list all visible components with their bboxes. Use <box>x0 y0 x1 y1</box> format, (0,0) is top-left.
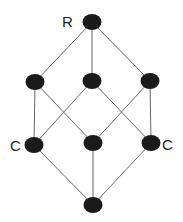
node-m3 <box>141 73 160 89</box>
node-top <box>83 14 102 30</box>
diagram-canvas: R C C <box>0 0 183 222</box>
node-m1 <box>26 74 45 90</box>
edges <box>34 22 151 205</box>
node-l2 <box>84 135 103 151</box>
label-left: C <box>10 137 21 154</box>
label-right: C <box>162 136 173 153</box>
edge <box>35 22 92 82</box>
lattice-diagram: R C C <box>0 0 183 222</box>
node-l3 <box>142 135 161 151</box>
edge <box>150 81 151 143</box>
node-m2 <box>83 73 102 89</box>
edge <box>93 81 150 143</box>
node-l1 <box>25 137 44 153</box>
edge <box>92 22 150 81</box>
edge <box>93 143 151 205</box>
edge <box>34 145 93 205</box>
label-top: R <box>62 13 73 30</box>
node-bottom <box>84 197 103 213</box>
edge <box>34 82 35 145</box>
